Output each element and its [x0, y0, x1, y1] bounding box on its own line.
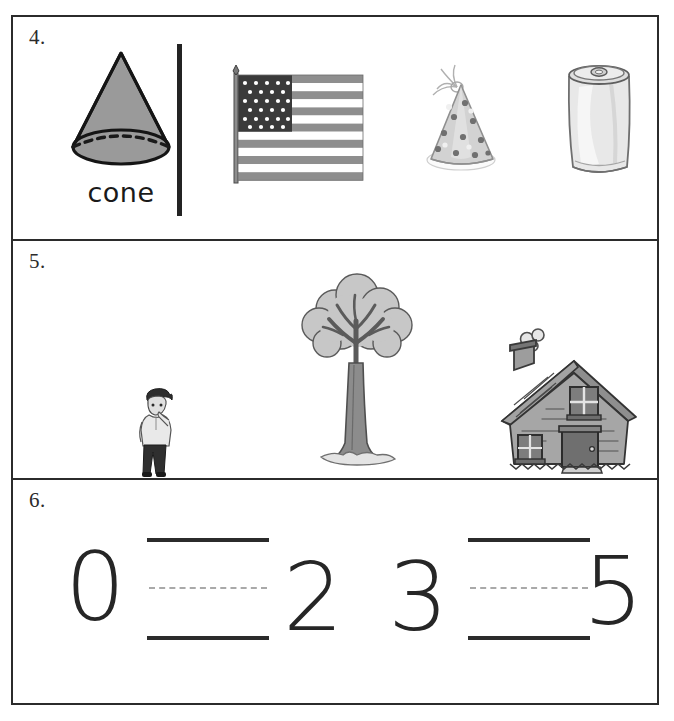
writing-rule-bottom	[468, 636, 590, 640]
question-number-4: 4.	[29, 25, 46, 50]
question-row-5: 5.	[13, 241, 657, 480]
sequence-number-5: 5	[583, 544, 643, 639]
row4-vertical-divider	[177, 44, 182, 216]
house-icon	[496, 325, 641, 475]
cone-prompt-group: cone	[61, 47, 181, 222]
question-row-4: 4. cone	[13, 17, 657, 241]
question-number-6: 6.	[29, 488, 46, 513]
question-row-6: 6. 0 2 3 5	[13, 480, 657, 705]
worksheet-frame: 4. cone	[11, 15, 659, 705]
sequence-blank-1[interactable]	[147, 538, 269, 640]
sequence-number-0: 0	[65, 540, 125, 635]
person-icon	[123, 386, 193, 481]
sequence-number-3: 3	[388, 550, 448, 645]
party-hat-icon	[409, 45, 529, 190]
cone-label: cone	[61, 177, 181, 208]
writing-rule-top	[468, 538, 590, 542]
object-house[interactable]	[496, 325, 641, 479]
object-american-flag[interactable]	[218, 57, 368, 191]
object-tree[interactable]	[291, 265, 421, 484]
writing-rule-bottom	[147, 636, 269, 640]
question-number-5: 5.	[29, 249, 46, 274]
writing-rule-middle-dashed	[470, 587, 588, 589]
object-person[interactable]	[123, 386, 193, 485]
object-soda-can[interactable]	[541, 47, 661, 196]
sequence-number-2: 2	[283, 550, 343, 645]
writing-rule-middle-dashed	[149, 587, 267, 589]
sequence-blank-4[interactable]	[468, 538, 590, 640]
number-sequence-strip: 0 2 3 5	[43, 522, 633, 657]
tree-icon	[291, 265, 421, 480]
writing-rule-top	[147, 538, 269, 542]
soda-can-icon	[541, 47, 661, 192]
cone-icon	[61, 47, 181, 177]
american-flag-icon	[218, 57, 368, 187]
object-party-hat[interactable]	[409, 45, 529, 194]
